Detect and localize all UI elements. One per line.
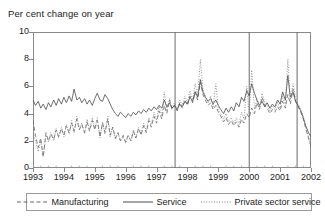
x-tick-label: 1997 xyxy=(140,172,174,182)
x-tick-label: 1998 xyxy=(170,172,204,182)
legend-label: Manufacturing xyxy=(51,197,108,207)
x-tick-label: 1999 xyxy=(201,172,235,182)
legend-item-private-sector-service[interactable]: Private sector service xyxy=(201,197,321,207)
y-tick-label: 2 xyxy=(7,135,29,145)
legend-label: Private sector service xyxy=(235,197,321,207)
y-tick-label: 8 xyxy=(7,53,29,63)
legend-item-service[interactable]: Service xyxy=(123,197,187,207)
chart-container: Per cent change on year 1086420 19931994… xyxy=(0,0,325,224)
chart-legend: ManufacturingServicePrivate sector servi… xyxy=(26,193,312,211)
x-tick-label: 2001 xyxy=(263,172,297,182)
legend-label: Service xyxy=(157,197,187,207)
x-tick-label: 2000 xyxy=(232,172,266,182)
x-tick-label: 2002 xyxy=(294,172,325,182)
series-line-manufacturing xyxy=(33,82,311,157)
x-tick-label: 1996 xyxy=(109,172,143,182)
chart-axis-title: Per cent change on year xyxy=(8,8,114,19)
y-tick-label: 0 xyxy=(7,162,29,172)
legend-swatch-dotted xyxy=(201,198,231,206)
plot-lines xyxy=(33,32,311,168)
legend-swatch-dashed xyxy=(17,198,47,206)
y-tick-label: 6 xyxy=(7,80,29,90)
legend-item-manufacturing[interactable]: Manufacturing xyxy=(17,197,108,207)
y-tick-label: 4 xyxy=(7,108,29,118)
legend-swatch-solid xyxy=(123,198,153,206)
x-tick-label: 1993 xyxy=(16,172,50,182)
y-tick-label: 10 xyxy=(7,26,29,36)
x-tick-label: 1994 xyxy=(47,172,81,182)
x-tick-label: 1995 xyxy=(78,172,112,182)
